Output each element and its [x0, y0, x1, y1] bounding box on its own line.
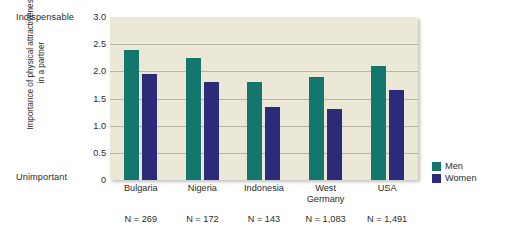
legend-label-men: Men [445, 161, 463, 171]
legend: MenWomen [432, 161, 477, 185]
legend-entry-men: Men [432, 161, 477, 171]
sample-size-annotations: N = 269N = 172N = 143N = 1,083N = 1,491 [110, 214, 418, 230]
x-axis-label-indonesia: Indonesia [234, 183, 294, 211]
bar-group-indonesia [247, 17, 280, 180]
x-axis-label-west-germany: West Germany [296, 183, 356, 211]
bars-layer [110, 17, 418, 180]
bar-group-west-germany [309, 17, 342, 180]
sample-size-usa: N = 1,491 [357, 214, 417, 230]
bar-women-west-germany [327, 109, 342, 180]
y-axis-tick-0: 0 [101, 175, 106, 185]
sample-size-indonesia: N = 143 [234, 214, 294, 230]
y-axis-tick-1.5: 1.5 [93, 94, 106, 104]
bar-group-usa [371, 17, 404, 180]
legend-swatch-men-icon [432, 162, 441, 171]
bar-men-usa [371, 66, 386, 180]
bar-women-usa [389, 90, 404, 180]
sample-size-nigeria: N = 172 [172, 214, 232, 230]
x-axis-label-usa: USA [357, 183, 417, 211]
bar-women-bulgaria [142, 74, 157, 180]
sample-size-bulgaria: N = 269 [111, 214, 171, 230]
bar-chart-figure: Indispensable Unimportant Importance of … [0, 0, 512, 243]
bar-men-nigeria [186, 58, 201, 180]
legend-label-women: Women [445, 173, 477, 183]
bar-men-west-germany [309, 77, 324, 180]
y-axis-tick-2.5: 2.5 [93, 39, 106, 49]
bar-group-nigeria [186, 17, 219, 180]
x-axis-category-labels: BulgariaNigeriaIndonesiaWest GermanyUSA [110, 183, 418, 211]
bar-women-nigeria [204, 82, 219, 180]
plot-area [110, 17, 418, 180]
bar-group-bulgaria [124, 17, 157, 180]
sample-size-west-germany: N = 1,083 [296, 214, 356, 230]
bar-men-bulgaria [124, 50, 139, 180]
x-axis-label-nigeria: Nigeria [172, 183, 232, 211]
legend-swatch-women-icon [432, 174, 441, 183]
x-axis-label-bulgaria: Bulgaria [111, 183, 171, 211]
y-axis-tick-3.0: 3.0 [93, 12, 106, 22]
y-axis-tick-2.0: 2.0 [93, 66, 106, 76]
y-axis-tick-labels: 3.02.52.01.51.00.50 [84, 0, 106, 243]
bar-men-indonesia [247, 82, 262, 180]
y-axis-title: Importance of physical attractiveness in… [26, 0, 47, 131]
legend-entry-women: Women [432, 173, 477, 183]
bar-women-indonesia [265, 107, 280, 180]
y-axis-tick-0.5: 0.5 [93, 148, 106, 158]
y-axis-bottom-endpoint-label: Unimportant [16, 172, 67, 182]
y-axis-tick-1.0: 1.0 [93, 121, 106, 131]
